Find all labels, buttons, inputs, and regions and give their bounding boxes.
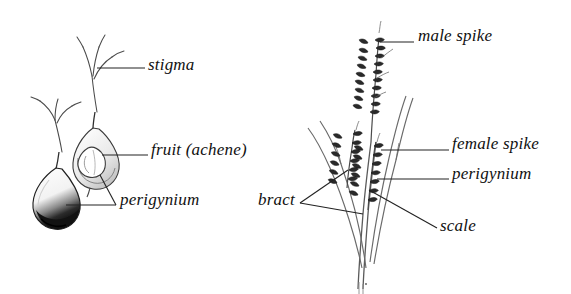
- perigynium-cutaway: [73, 35, 124, 197]
- male-spike: [352, 21, 393, 142]
- label-scale: scale: [440, 217, 476, 234]
- label-perigynium-right: perigynium: [452, 165, 531, 182]
- label-fruit-achene: fruit (achene): [151, 141, 247, 158]
- label-male-spike: male spike: [418, 27, 492, 44]
- label-stigma: stigma: [148, 56, 195, 73]
- leader-bract-upper: [300, 170, 348, 203]
- label-bract: bract: [258, 191, 295, 208]
- botanical-figure: stigma fruit (achene) perigynium male sp…: [0, 0, 571, 294]
- label-perigynium-left: perigynium: [120, 191, 199, 208]
- leader-scale: [369, 190, 437, 228]
- label-female-spike: female spike: [452, 135, 539, 152]
